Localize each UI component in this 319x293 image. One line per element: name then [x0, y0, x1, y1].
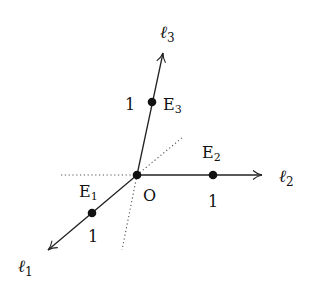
- origin-point: [133, 171, 142, 180]
- unit-label-l3: 1: [125, 95, 135, 114]
- unit-point-e1: [88, 209, 97, 218]
- unit-point-e2: [209, 171, 218, 180]
- axis-label-l3: ℓ3: [160, 22, 175, 45]
- unit-point-e3: [148, 98, 157, 107]
- axes-diagram: ℓ3 ℓ2 ℓ1 E3 E2 E1 O 1 1 1: [0, 0, 319, 293]
- unit-label-l1: 1: [88, 227, 98, 246]
- unit-label-l2: 1: [208, 192, 218, 211]
- axis-label-l1: ℓ1: [18, 256, 33, 279]
- axis-label-l2: ℓ2: [279, 166, 294, 189]
- origin-label: O: [143, 186, 156, 205]
- axis-l3: [137, 53, 163, 175]
- point-label-e1: E1: [79, 182, 98, 203]
- point-label-e2: E2: [202, 143, 221, 164]
- point-label-e3: E3: [163, 95, 182, 116]
